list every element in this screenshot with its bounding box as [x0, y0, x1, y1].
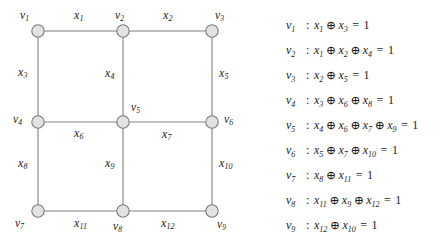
xor-operator-icon: ⊕	[348, 118, 363, 132]
xor-operator-icon: ⊕	[323, 118, 338, 132]
edge-label-x5: x5	[219, 67, 228, 79]
xor-operator-icon: ⊕	[327, 193, 342, 207]
equation-term: x12	[366, 193, 379, 207]
equals-sign: =	[356, 218, 372, 232]
graph-node-v5	[117, 116, 129, 128]
vertex-label-v6: v6	[224, 114, 233, 126]
equation-term: x4	[314, 118, 323, 132]
equation-rhs-value: 1	[364, 68, 370, 82]
equals-sign: =	[372, 43, 388, 57]
equation-row-v4: v4:x3⊕x6⊕x8 = 1	[286, 93, 394, 107]
equation-expression: x4⊕x6⊕x7⊕x9 = 1	[314, 118, 418, 133]
equation-term: x5	[338, 68, 347, 82]
equals-sign: =	[348, 18, 364, 32]
vertex-label-v4: v4	[13, 114, 22, 126]
graph-node-v1	[32, 25, 44, 37]
equation-row-v5: v5:x4⊕x6⊕x7⊕x9 = 1	[286, 118, 418, 132]
equation-vertex-label: v6	[286, 143, 306, 158]
equation-rhs-value: 1	[392, 143, 398, 157]
xor-operator-icon: ⊕	[323, 93, 338, 107]
equation-vertex-label: v3	[286, 68, 306, 83]
equation-row-v2: v2:x1⊕x2⊕x4 = 1	[286, 43, 394, 57]
equation-term: x11	[338, 168, 351, 182]
edge-label-x11: x11	[74, 217, 87, 229]
equation-vertex-label: v7	[286, 168, 306, 183]
equation-colon: :	[306, 43, 314, 58]
grid-graph-diagram: v1v2v3v4v5v6v7v8v9x1x2x3x4x5x6x7x8x9x10x…	[0, 0, 270, 246]
equation-row-v9: v9:x12⊕x10 = 1	[286, 218, 378, 232]
xor-operator-icon: ⊕	[323, 18, 338, 32]
equals-sign: =	[397, 118, 413, 132]
equation-term: x10	[342, 218, 355, 232]
equation-term: x6	[338, 118, 347, 132]
equation-term: x3	[338, 18, 347, 32]
edge-label-x7: x7	[162, 128, 171, 140]
equation-rhs-value: 1	[388, 43, 394, 57]
equation-term: x6	[338, 93, 347, 107]
equation-colon: :	[306, 193, 314, 208]
equation-term: x3	[314, 93, 323, 107]
equation-rhs-value: 1	[364, 18, 370, 32]
equation-row-v7: v7:x8⊕x11 = 1	[286, 168, 373, 182]
equation-term: x9	[342, 193, 351, 207]
graph-node-v4	[32, 116, 44, 128]
vertex-label-v5: v5	[131, 102, 140, 114]
vertex-label-v8: v8	[113, 221, 122, 233]
equation-term: x8	[314, 168, 323, 182]
equation-colon: :	[306, 143, 314, 158]
equation-term: x8	[363, 93, 372, 107]
xor-operator-icon: ⊕	[323, 143, 338, 157]
equation-expression: x3⊕x6⊕x8 = 1	[314, 93, 394, 108]
equation-row-v1: v1:x1⊕x3 = 1	[286, 18, 370, 32]
equation-expression: x12⊕x10 = 1	[314, 218, 378, 233]
equation-colon: :	[306, 168, 314, 183]
equation-term: x11	[314, 193, 327, 207]
graph-node-v7	[32, 205, 44, 217]
equation-expression: x1⊕x2⊕x4 = 1	[314, 43, 394, 58]
equation-term: x2	[314, 68, 323, 82]
vertex-label-v3: v3	[215, 10, 224, 22]
equation-expression: x1⊕x3 = 1	[314, 18, 370, 33]
equation-term: x1	[314, 18, 323, 32]
figure-root: v1v2v3v4v5v6v7v8v9x1x2x3x4x5x6x7x8x9x10x…	[0, 0, 447, 246]
equation-term: x9	[387, 118, 396, 132]
edge-label-x9: x9	[105, 157, 114, 169]
vertex-label-v9: v9	[217, 219, 226, 231]
edge-label-x3: x3	[18, 66, 27, 78]
xor-operator-icon: ⊕	[323, 168, 338, 182]
equation-expression: x2⊕x5 = 1	[314, 68, 370, 83]
equals-sign: =	[351, 168, 367, 182]
equation-term: x1	[314, 43, 323, 57]
equation-colon: :	[306, 118, 314, 133]
equals-sign: =	[376, 143, 392, 157]
equation-colon: :	[306, 68, 314, 83]
equation-expression: x8⊕x11 = 1	[314, 168, 373, 183]
equation-rhs-value: 1	[367, 168, 373, 182]
edge-label-x8: x8	[18, 157, 27, 169]
equation-rhs-value: 1	[372, 218, 378, 232]
equation-row-v6: v6:x5⊕x7⊕x10 = 1	[286, 143, 398, 157]
equation-vertex-label: v8	[286, 193, 306, 208]
edge-label-x4: x4	[105, 67, 114, 79]
equation-term: x2	[338, 43, 347, 57]
equals-sign: =	[348, 68, 364, 82]
xor-operator-icon: ⊕	[351, 193, 366, 207]
equals-sign: =	[380, 193, 396, 207]
edge-label-x1: x1	[74, 9, 83, 21]
equation-expression: x5⊕x7⊕x10 = 1	[314, 143, 398, 158]
vertex-label-v2: v2	[115, 10, 124, 22]
equals-sign: =	[372, 93, 388, 107]
equation-term: x7	[338, 143, 347, 157]
equation-row-v8: v8:x11⊕x9⊕x12 = 1	[286, 193, 401, 207]
equation-colon: :	[306, 218, 314, 233]
equation-term: x10	[363, 143, 376, 157]
graph-node-v3	[206, 25, 218, 37]
equation-vertex-label: v2	[286, 43, 306, 58]
edge-label-x6: x6	[74, 127, 83, 139]
equation-vertex-label: v1	[286, 18, 306, 33]
xor-operator-icon: ⊕	[348, 143, 363, 157]
equation-expression: x11⊕x9⊕x12 = 1	[314, 193, 401, 208]
equation-colon: :	[306, 18, 314, 33]
equation-vertex-label: v9	[286, 218, 306, 233]
equation-row-v3: v3:x2⊕x5 = 1	[286, 68, 370, 82]
